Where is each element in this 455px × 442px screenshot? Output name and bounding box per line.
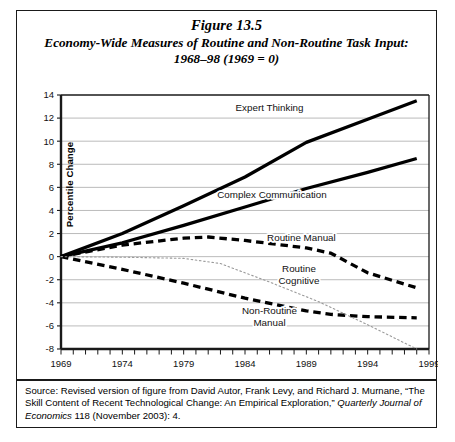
series-label: Manual xyxy=(253,317,285,328)
figure-title: Economy-Wide Measures of Routine and Non… xyxy=(17,34,436,67)
source-divider xyxy=(17,379,436,381)
series-label: Non-Routine xyxy=(242,305,298,316)
y-tick-label: 14 xyxy=(43,89,54,100)
source-note: Source: Revised version of figure from D… xyxy=(25,385,429,422)
x-tick-label: 1969 xyxy=(50,358,71,369)
series-line xyxy=(61,159,417,257)
series-label: Routine xyxy=(282,263,316,274)
x-tick-label: 1979 xyxy=(173,358,194,369)
x-tick-label: 1984 xyxy=(234,358,255,369)
y-tick-label: 0 xyxy=(49,251,54,262)
y-tick-label: -6 xyxy=(46,320,54,331)
y-tick-label: 6 xyxy=(49,182,54,193)
y-tick-label: 8 xyxy=(49,159,54,170)
series-label: Routine Manual xyxy=(267,232,336,243)
series-line xyxy=(61,257,417,318)
y-tick-label: -8 xyxy=(46,343,54,354)
y-tick-label: 2 xyxy=(49,228,54,239)
series-label: Expert Thinking xyxy=(236,102,304,113)
figure-frame: Figure 13.5 Economy-Wide Measures of Rou… xyxy=(16,10,437,428)
x-tick-label: 1974 xyxy=(112,358,133,369)
figure-number: Figure 13.5 xyxy=(17,17,436,34)
y-tick-label: -4 xyxy=(46,297,54,308)
source-suffix: 118 (November 2003): 4. xyxy=(72,410,181,421)
series-label: Cognitive xyxy=(279,275,320,286)
y-tick-label: -2 xyxy=(46,274,54,285)
series-label: Complex Communication xyxy=(217,189,326,200)
y-axis-title: Percentile Change xyxy=(64,125,75,245)
title-block: Figure 13.5 Economy-Wide Measures of Rou… xyxy=(17,17,436,67)
x-tick-label: 1989 xyxy=(296,358,317,369)
y-tick-label: 12 xyxy=(43,112,54,123)
x-tick-label: 1999 xyxy=(418,358,438,369)
x-tick-label: 1994 xyxy=(357,358,378,369)
line-chart: -8-6-4-202468101214196919741979198419891… xyxy=(17,83,438,375)
chart-area: Percentile Change -8-6-4-202468101214196… xyxy=(17,83,438,375)
y-tick-label: 10 xyxy=(43,136,54,147)
y-tick-label: 4 xyxy=(49,205,54,216)
